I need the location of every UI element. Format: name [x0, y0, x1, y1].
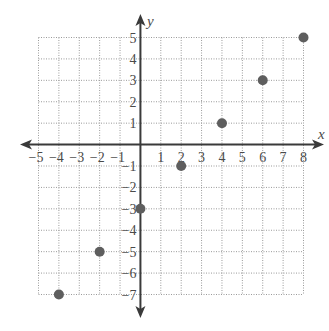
x-tick-label: 8: [300, 150, 307, 165]
x-tick-label: −2: [90, 150, 105, 165]
y-tick-label: 4: [129, 52, 136, 67]
data-point: [258, 75, 268, 85]
data-point: [95, 247, 105, 257]
data-point: [217, 118, 227, 128]
y-tick-labels: −7−6−5−4−3−2−112345: [122, 31, 137, 303]
data-point: [54, 290, 64, 300]
data-point: [176, 161, 186, 171]
y-tick-label: −7: [122, 288, 137, 303]
y-tick-label: −5: [122, 245, 137, 260]
data-point: [135, 204, 145, 214]
x-tick-label: 1: [157, 150, 164, 165]
y-axis-label: y: [145, 13, 154, 29]
x-tick-label: 3: [198, 150, 205, 165]
scatter-plot: −5−4−3−2−112345678 −7−6−5−4−3−2−112345 x…: [0, 0, 329, 331]
y-tick-label: 1: [129, 116, 136, 131]
x-tick-label: 5: [239, 150, 246, 165]
y-tick-label: 5: [129, 31, 136, 46]
y-tick-label: −6: [122, 266, 137, 281]
x-tick-label: 4: [218, 150, 225, 165]
data-point: [299, 33, 309, 43]
y-tick-label: −3: [122, 202, 137, 217]
x-tick-label: −5: [29, 150, 44, 165]
x-axis-label: x: [317, 126, 325, 142]
x-tick-labels: −5−4−3−2−112345678: [29, 150, 307, 165]
x-tick-label: 6: [259, 150, 266, 165]
y-tick-label: 3: [129, 73, 136, 88]
x-tick-label: 7: [280, 150, 287, 165]
y-tick-label: −4: [122, 223, 137, 238]
y-tick-label: −2: [122, 180, 137, 195]
y-tick-label: −1: [122, 159, 137, 174]
y-tick-label: 2: [129, 95, 136, 110]
x-tick-label: −3: [69, 150, 84, 165]
x-tick-label: −4: [49, 150, 64, 165]
